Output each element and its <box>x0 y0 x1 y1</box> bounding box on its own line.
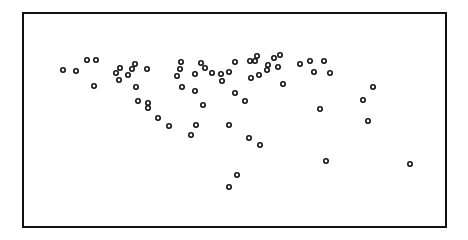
data-point <box>193 89 197 93</box>
data-point <box>179 60 183 64</box>
data-point <box>94 58 98 62</box>
data-point <box>189 133 193 137</box>
data-point <box>298 62 302 66</box>
data-point <box>126 73 130 77</box>
data-point <box>145 67 149 71</box>
data-point <box>248 59 252 63</box>
data-point <box>227 185 231 189</box>
data-point <box>175 74 179 78</box>
data-point <box>328 71 332 75</box>
data-point <box>371 85 375 89</box>
data-point <box>199 61 203 65</box>
data-point <box>281 82 285 86</box>
data-point <box>324 159 328 163</box>
scatter-chart <box>0 0 468 240</box>
data-point <box>308 59 312 63</box>
data-point <box>257 73 261 77</box>
data-point <box>156 116 160 120</box>
data-point <box>361 98 365 102</box>
data-point <box>130 67 134 71</box>
data-point <box>118 66 122 70</box>
data-point <box>210 71 214 75</box>
data-point <box>133 62 137 66</box>
data-point <box>178 67 182 71</box>
data-point <box>276 65 280 69</box>
data-point <box>114 71 118 75</box>
data-point <box>243 99 247 103</box>
data-point <box>247 136 251 140</box>
data-point <box>233 60 237 64</box>
data-point <box>233 91 237 95</box>
data-point <box>74 69 78 73</box>
data-point <box>312 70 316 74</box>
data-point <box>117 78 121 82</box>
data-point <box>227 123 231 127</box>
data-point <box>61 68 65 72</box>
data-point <box>322 59 326 63</box>
data-point <box>134 85 138 89</box>
data-point <box>85 58 89 62</box>
data-point <box>258 143 262 147</box>
data-point <box>203 66 207 70</box>
plot-frame <box>23 13 446 227</box>
data-point <box>266 63 270 67</box>
data-point <box>278 53 282 57</box>
data-point <box>265 68 269 72</box>
data-point <box>249 76 253 80</box>
data-point <box>92 84 96 88</box>
data-point <box>235 173 239 177</box>
data-point <box>180 85 184 89</box>
data-point <box>408 162 412 166</box>
data-point <box>146 101 150 105</box>
data-point <box>227 70 231 74</box>
data-point <box>220 79 224 83</box>
data-point <box>318 107 322 111</box>
data-point <box>194 123 198 127</box>
data-point <box>272 56 276 60</box>
data-point <box>253 59 257 63</box>
data-point <box>193 72 197 76</box>
data-point <box>136 99 140 103</box>
data-point <box>255 54 259 58</box>
data-point <box>219 72 223 76</box>
data-point <box>366 119 370 123</box>
data-point <box>201 103 205 107</box>
data-point <box>167 124 171 128</box>
data-point <box>146 106 150 110</box>
